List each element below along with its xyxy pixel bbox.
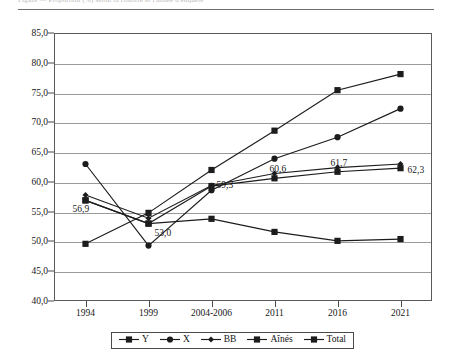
gridline — [55, 213, 431, 214]
x-axis-tick-label: 2004-2006 — [191, 308, 232, 318]
x-axis-tick-mark — [401, 301, 402, 307]
square-marker-icon — [304, 335, 324, 344]
data-point-label: 59,3 — [217, 180, 234, 190]
legend-label: Aînés — [270, 335, 292, 345]
top-caption-text: Figure — Proportion (%) selon la cohorte… — [18, 0, 434, 6]
chart-page: Figure — Proportion (%) selon la cohorte… — [0, 0, 452, 356]
y-axis-tick-label: 60,0 — [4, 177, 48, 187]
line-chart: 85,080,075,070,065,060,055,050,045,040,0… — [0, 14, 452, 356]
gridline — [55, 64, 431, 65]
x-axis-tick-label: 2016 — [328, 308, 347, 318]
y-axis-tick-mark — [48, 181, 54, 182]
x-axis-tick-label: 1994 — [76, 308, 95, 318]
y-axis-tick-label: 45,0 — [4, 266, 48, 276]
circle-marker-icon — [160, 335, 180, 344]
y-axis-tick-label: 85,0 — [4, 28, 48, 38]
y-axis-tick-mark — [48, 241, 54, 242]
y-axis-tick-mark — [48, 301, 54, 302]
legend-item-x[interactable]: X — [160, 335, 190, 345]
legend-item-total[interactable]: Total — [304, 335, 346, 345]
legend-label: X — [183, 335, 190, 345]
square-marker-icon — [119, 335, 139, 344]
data-point-label: 53,0 — [155, 228, 172, 238]
x-axis-tick-label: 2011 — [265, 308, 284, 318]
x-axis-tick-mark — [212, 301, 213, 307]
chart-legend: YXBBAînésTotal — [111, 332, 354, 349]
x-axis-tick-mark — [275, 301, 276, 307]
legend-item-y[interactable]: Y — [119, 335, 149, 345]
y-axis-tick-mark — [48, 33, 54, 34]
legend-label: Total — [327, 335, 346, 345]
x-axis-tick-mark — [86, 301, 87, 307]
y-axis-tick-mark — [48, 122, 54, 123]
diamond-marker-icon — [201, 335, 221, 344]
square-marker-icon — [247, 335, 267, 344]
data-point-label: 60,6 — [270, 164, 287, 174]
y-axis-tick-mark — [48, 271, 54, 272]
y-axis-tick-label: 70,0 — [4, 117, 48, 127]
y-axis-tick-label: 65,0 — [4, 147, 48, 157]
y-axis-tick-label: 75,0 — [4, 88, 48, 98]
y-axis-tick-mark — [48, 62, 54, 63]
y-axis-tick-label: 40,0 — [4, 296, 48, 306]
y-axis-tick-mark — [48, 152, 54, 153]
y-axis-tick-label: 80,0 — [4, 58, 48, 68]
legend-label: BB — [224, 335, 237, 345]
legend-item-a-n-s[interactable]: Aînés — [247, 335, 292, 345]
x-axis-tick-label: 1999 — [139, 308, 158, 318]
legend-item-bb[interactable]: BB — [201, 335, 237, 345]
data-point-label: 62,3 — [408, 165, 425, 175]
gridline — [55, 183, 431, 184]
gridline — [55, 94, 431, 95]
gridline — [55, 242, 431, 243]
legend-label: Y — [142, 335, 149, 345]
y-axis-tick-mark — [48, 211, 54, 212]
gridline — [55, 153, 431, 154]
x-axis-tick-label: 2021 — [391, 308, 410, 318]
x-axis-tick-mark — [338, 301, 339, 307]
x-axis-tick-mark — [149, 301, 150, 307]
gridline — [55, 123, 431, 124]
data-point-label: 56,9 — [73, 204, 90, 214]
header-divider — [18, 9, 434, 10]
y-axis-tick-label: 50,0 — [4, 236, 48, 246]
y-axis-tick-mark — [48, 92, 54, 93]
plot-area — [54, 33, 432, 301]
y-axis-tick-label: 55,0 — [4, 207, 48, 217]
data-point-label: 61,7 — [331, 158, 348, 168]
gridline — [55, 272, 431, 273]
